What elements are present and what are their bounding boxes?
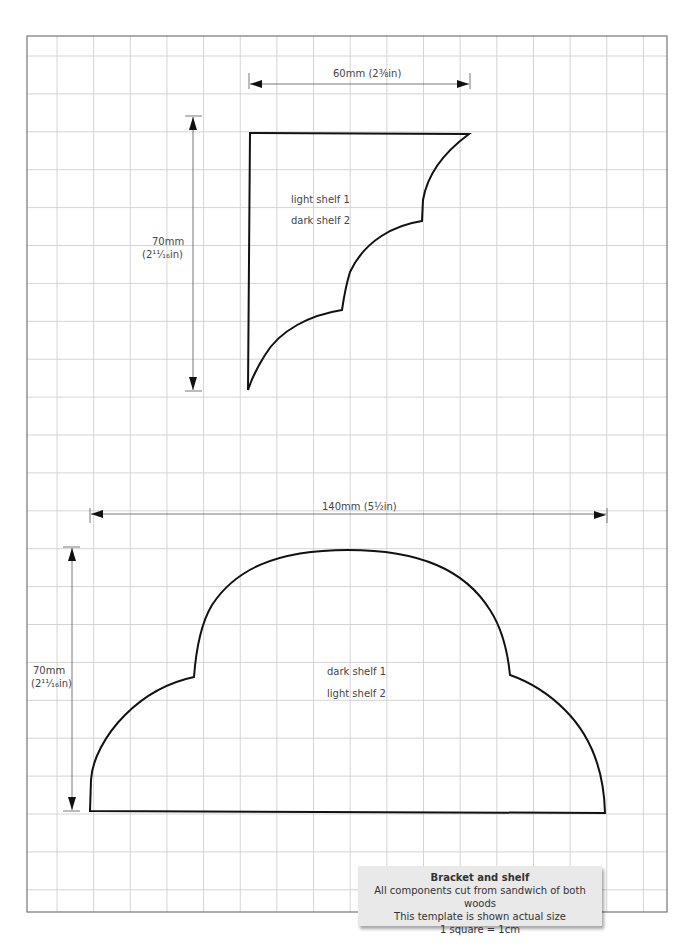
bracket-height-dimension xyxy=(185,116,202,391)
shelf-height-label-mm: 70mm xyxy=(33,664,65,677)
shelf-width-label: 140mm (5½in) xyxy=(322,500,397,513)
arrow-up-icon xyxy=(68,548,76,561)
arrow-right-icon xyxy=(594,511,606,519)
caption-box: Bracket and shelf All components cut fro… xyxy=(358,866,602,926)
arrow-down-icon xyxy=(68,797,76,810)
bracket-outline xyxy=(248,133,469,390)
bracket-label-2: dark shelf 2 xyxy=(291,214,350,227)
template-drawing xyxy=(0,0,694,948)
caption-line: 1 square = 1cm xyxy=(358,923,602,936)
shelf-height-label-in: (2¹¹⁄₁₆in) xyxy=(31,677,72,690)
shelf-label-1: dark shelf 1 xyxy=(327,665,386,678)
shelf-label-2: light shelf 2 xyxy=(327,687,386,700)
bracket-height-label-mm: 70mm xyxy=(152,235,184,248)
grid-lines xyxy=(27,36,667,912)
caption-title: Bracket and shelf xyxy=(358,871,602,884)
caption-line: All components cut from sandwich of both… xyxy=(358,884,602,910)
arrow-up-icon xyxy=(189,117,197,130)
bracket-width-label: 60mm (2⅜in) xyxy=(333,67,401,80)
arrow-down-icon xyxy=(189,377,197,390)
grid-border xyxy=(27,36,667,912)
bracket-height-label-in: (2¹¹⁄₁₆in) xyxy=(142,248,183,261)
caption-line: This template is shown actual size xyxy=(358,910,602,923)
arrow-left-icon xyxy=(250,80,262,88)
bracket-label-1: light shelf 1 xyxy=(291,193,350,206)
arrow-right-icon xyxy=(457,80,469,88)
